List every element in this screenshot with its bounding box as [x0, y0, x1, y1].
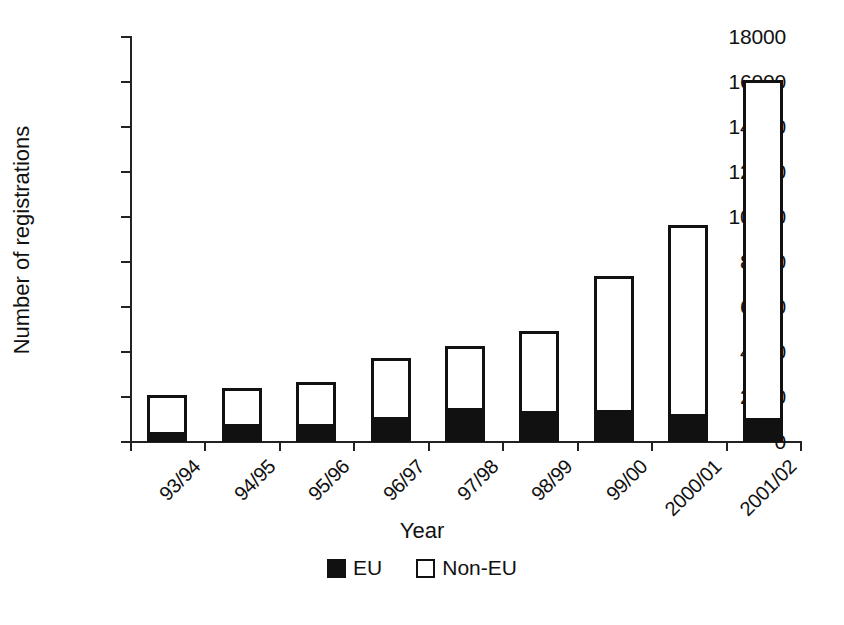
- bar-segment-eu: [299, 424, 333, 439]
- bar-94-95: [222, 388, 262, 442]
- x-axis-tick: [726, 442, 728, 451]
- x-axis-title: Year: [0, 518, 844, 544]
- x-axis-tick: [130, 442, 132, 451]
- y-axis-tick: [121, 126, 130, 128]
- bar-segment-eu: [374, 417, 408, 439]
- y-axis-tick: [121, 36, 130, 38]
- legend-item-eu: EU: [327, 556, 382, 580]
- x-axis-tick-label: 95/96: [304, 455, 355, 506]
- x-axis-tick: [651, 442, 653, 451]
- x-axis-tick-label: 96/97: [378, 455, 429, 506]
- bar-98-99: [519, 331, 559, 442]
- x-axis-tick-label: 94/95: [229, 455, 280, 506]
- bar-2000-01: [668, 225, 708, 442]
- y-axis-tick: [121, 441, 130, 443]
- y-axis-title: Number of registrations: [9, 126, 35, 355]
- bar-segment-eu: [522, 411, 556, 439]
- bar-96-97: [371, 358, 411, 442]
- legend-item-non-eu: Non-EU: [416, 556, 517, 580]
- x-axis-tick-label: 2001/02: [735, 455, 801, 521]
- bar-2001-02: [743, 80, 783, 442]
- legend-swatch-icon: [327, 559, 346, 578]
- chart-figure: Number of registrations 0200040006000800…: [0, 0, 844, 625]
- y-axis-tick: [121, 351, 130, 353]
- plot-area: 0200040006000800010000120001400016000180…: [130, 37, 800, 442]
- x-axis-tick: [353, 442, 355, 451]
- bar-segment-eu: [150, 432, 184, 439]
- bar-segment-eu: [597, 410, 631, 439]
- x-axis-tick-label: 93/94: [155, 455, 206, 506]
- bar-segment-eu: [225, 424, 259, 439]
- x-axis-tick: [502, 442, 504, 451]
- bar-segment-eu: [448, 408, 482, 439]
- x-axis-tick: [428, 442, 430, 451]
- x-axis-tick: [279, 442, 281, 451]
- y-axis-tick: [121, 171, 130, 173]
- bar-segment-eu: [746, 418, 780, 439]
- x-axis-tick: [800, 442, 802, 451]
- bar-segment-eu: [671, 414, 705, 439]
- legend-swatch-icon: [416, 559, 435, 578]
- x-axis-tick-label: 98/99: [527, 455, 578, 506]
- bar-93-94: [147, 395, 187, 442]
- x-axis-tick-label: 97/98: [453, 455, 504, 506]
- y-axis-tick: [121, 81, 130, 83]
- y-axis-tick: [121, 261, 130, 263]
- bar-97-98: [445, 346, 485, 442]
- y-axis-tick: [121, 396, 130, 398]
- chart-legend: EUNon-EU: [0, 556, 844, 580]
- legend-label: Non-EU: [442, 556, 517, 580]
- x-axis-tick-label: 99/00: [602, 455, 653, 506]
- y-axis-tick-label: 18000: [729, 25, 786, 49]
- x-axis-tick: [204, 442, 206, 451]
- bar-99-00: [594, 276, 634, 443]
- legend-label: EU: [353, 556, 382, 580]
- x-axis-tick: [577, 442, 579, 451]
- x-axis-tick-label: 2000/01: [661, 455, 727, 521]
- y-axis-tick: [121, 216, 130, 218]
- bar-95-96: [296, 382, 336, 442]
- y-axis-tick: [121, 306, 130, 308]
